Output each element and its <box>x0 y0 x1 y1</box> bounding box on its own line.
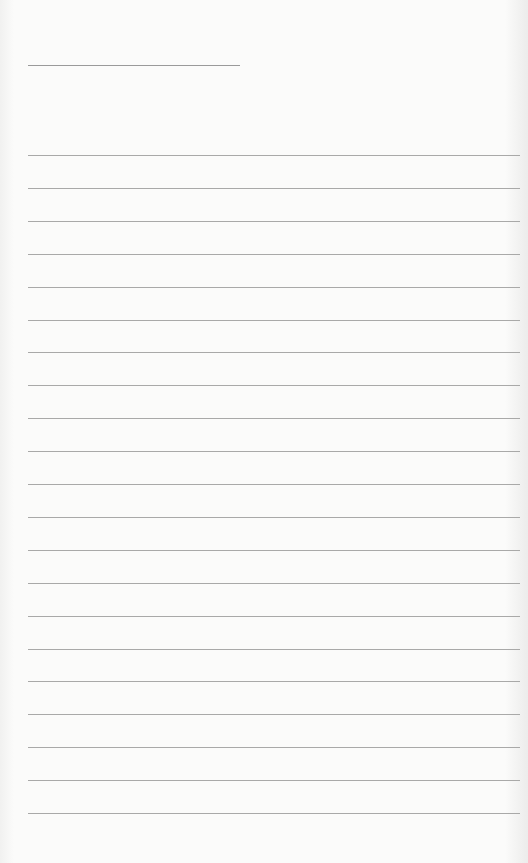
ruled-line <box>28 714 520 715</box>
ruled-line <box>28 418 520 419</box>
ruled-line <box>28 484 520 485</box>
ruled-line <box>28 813 520 814</box>
ruled-line <box>28 583 520 584</box>
ruled-line <box>28 517 520 518</box>
ruled-line <box>28 780 520 781</box>
ruled-line <box>28 254 520 255</box>
ruled-line <box>28 451 520 452</box>
ruled-line <box>28 287 520 288</box>
ruled-line <box>28 649 520 650</box>
ruled-line <box>28 320 520 321</box>
ruled-line <box>28 616 520 617</box>
ruled-line <box>28 155 520 156</box>
lined-paper-page <box>0 0 528 863</box>
ruled-line <box>28 747 520 748</box>
ruled-line <box>28 550 520 551</box>
title-line <box>28 65 240 66</box>
ruled-line <box>28 221 520 222</box>
ruled-line <box>28 385 520 386</box>
ruled-line <box>28 188 520 189</box>
ruled-line <box>28 681 520 682</box>
ruled-line <box>28 352 520 353</box>
